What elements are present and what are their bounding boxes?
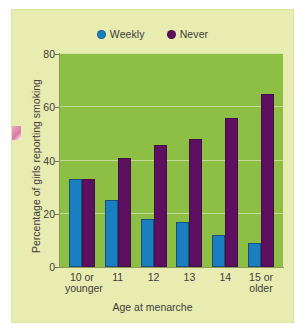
y-axis-tick-mark <box>54 267 59 268</box>
y-axis-tick-mark <box>54 214 59 215</box>
bar-weekly[interactable] <box>105 200 118 267</box>
x-axis-tick-label-line: 12 <box>137 272 171 283</box>
legend-item-never[interactable]: Never <box>167 28 209 40</box>
bar-never[interactable] <box>261 94 274 267</box>
x-axis-tick-label-line: older <box>244 283 278 294</box>
bar-never[interactable] <box>118 158 131 267</box>
bar-never[interactable] <box>225 118 238 267</box>
bar-weekly[interactable] <box>248 243 261 267</box>
legend-marker-weekly-icon <box>97 30 106 39</box>
bar-group <box>212 54 238 267</box>
bar-groups <box>60 54 283 267</box>
bar-group <box>69 54 95 267</box>
bar-weekly[interactable] <box>141 219 154 267</box>
bar-weekly[interactable] <box>69 179 82 267</box>
legend-label-weekly: Weekly <box>110 28 145 40</box>
x-axis-tick-label-line: 13 <box>172 272 206 283</box>
x-axis-tick-label: 11 <box>101 272 135 294</box>
x-axis-tick-labels: 10 oryounger1112131415 orolder <box>60 272 283 294</box>
x-axis-tick-label: 13 <box>172 272 206 294</box>
legend-marker-never-icon <box>167 30 176 39</box>
x-axis-tick-label-line: 14 <box>208 272 242 283</box>
scan-artifact <box>12 126 21 140</box>
legend-item-weekly[interactable]: Weekly <box>97 28 145 40</box>
bar-group <box>248 54 274 267</box>
x-axis-tick-label-line: younger <box>65 283 99 294</box>
bar-never[interactable] <box>154 145 167 267</box>
x-axis-tick-label: 15 orolder <box>244 272 278 294</box>
bar-group <box>176 54 202 267</box>
y-axis-tick-mark <box>54 107 59 108</box>
bar-never[interactable] <box>189 139 202 267</box>
bar-never[interactable] <box>82 179 95 267</box>
legend-label-never: Never <box>180 28 209 40</box>
bar-group <box>105 54 131 267</box>
bar-weekly[interactable] <box>212 235 225 267</box>
x-axis-tick-label: 14 <box>208 272 242 294</box>
bar-group <box>141 54 167 267</box>
y-axis-title: Percentage of girls reporting smoking <box>30 66 42 266</box>
chart-legend: Weekly Never <box>12 28 293 40</box>
chart-figure: Weekly Never 020406080 Percentage of gir… <box>12 10 293 322</box>
x-axis-title: Age at menarche <box>12 301 293 313</box>
y-axis-tick-mark <box>54 161 59 162</box>
y-axis-tick-mark <box>54 54 59 55</box>
x-axis-tick-label: 12 <box>137 272 171 294</box>
plot-area <box>60 54 283 267</box>
x-axis-tick-label: 10 oryounger <box>65 272 99 294</box>
x-axis-line <box>59 267 284 268</box>
y-axis-line <box>59 53 60 268</box>
x-axis-tick-label-line: 11 <box>101 272 135 283</box>
bar-weekly[interactable] <box>176 222 189 267</box>
y-axis-tick-label: 80 <box>27 48 55 60</box>
